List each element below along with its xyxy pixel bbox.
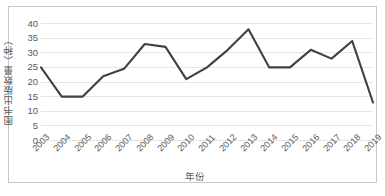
x-tick-label: 2016 <box>301 132 322 153</box>
x-tick-label: 2010 <box>176 132 197 153</box>
x-tick-label: 2011 <box>197 133 217 153</box>
x-tick-label: 2017 <box>322 132 343 153</box>
x-axis-title: 年份 <box>185 172 205 182</box>
x-tick-label: 2015 <box>280 132 301 153</box>
x-tick-label: 2009 <box>156 132 177 153</box>
x-tick-label: 2003 <box>31 132 52 153</box>
x-tick-label: 2012 <box>218 132 239 153</box>
x-tick-label: 2004 <box>52 132 73 153</box>
x-tick-label: 2019 <box>363 132 384 153</box>
chart-figure: 0510152025303540 20032004200520062007200… <box>0 0 385 196</box>
x-tick-label: 2013 <box>239 132 260 153</box>
y-axis-title: 图书出版数量（种） <box>1 18 17 143</box>
x-tick-label: 2008 <box>135 132 156 153</box>
x-tick-label: 2007 <box>114 132 135 153</box>
x-tick-label: 2018 <box>342 132 363 153</box>
x-tick-label: 2014 <box>259 132 280 153</box>
x-axis-tick-labels: 2003200420052006200720082009201020112012… <box>0 0 385 196</box>
x-tick-label: 2005 <box>73 132 94 153</box>
x-tick-label: 2006 <box>93 132 114 153</box>
